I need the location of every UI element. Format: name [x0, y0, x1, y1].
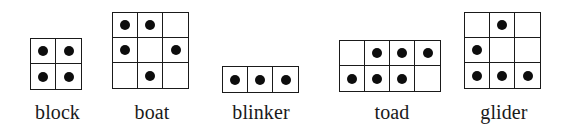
dead-cell[interactable] [415, 66, 440, 91]
live-cell[interactable] [273, 67, 298, 92]
grid-toad [339, 40, 441, 92]
dead-cell[interactable] [163, 63, 188, 88]
grid-row [340, 41, 440, 66]
live-cell[interactable] [465, 38, 490, 63]
live-cell[interactable] [465, 63, 490, 88]
live-cell[interactable] [113, 13, 138, 38]
grid-blinker [222, 66, 299, 93]
dead-cell[interactable] [163, 13, 188, 38]
life-patterns-figure: blockboatblinkertoadglider [0, 0, 573, 135]
grid-row [113, 38, 188, 63]
dead-cell[interactable] [113, 63, 138, 88]
dead-cell[interactable] [465, 13, 490, 38]
live-cell[interactable] [163, 38, 188, 63]
live-cell[interactable] [515, 63, 540, 88]
dead-cell[interactable] [138, 38, 163, 63]
grid-row [113, 13, 188, 38]
pattern-label-toad: toad [339, 101, 445, 123]
live-cell[interactable] [138, 63, 163, 88]
pattern-label-blinker: blinker [210, 101, 312, 123]
grid-block [30, 38, 82, 90]
grid-row [31, 64, 81, 89]
live-cell[interactable] [390, 41, 415, 66]
grid-row [113, 63, 188, 88]
live-cell[interactable] [31, 64, 56, 89]
grid-row [465, 38, 540, 63]
dead-cell[interactable] [515, 38, 540, 63]
pattern-label-boat: boat [112, 101, 192, 123]
live-cell[interactable] [248, 67, 273, 92]
grid-row [223, 67, 298, 92]
live-cell[interactable] [390, 66, 415, 91]
grid-row [465, 63, 540, 88]
live-cell[interactable] [56, 64, 81, 89]
dead-cell[interactable] [490, 38, 515, 63]
pattern-label-glider: glider [455, 101, 553, 123]
live-cell[interactable] [365, 66, 390, 91]
grid-glider [464, 12, 541, 89]
grid-row [465, 13, 540, 38]
grid-row [31, 39, 81, 64]
live-cell[interactable] [138, 13, 163, 38]
live-cell[interactable] [490, 13, 515, 38]
pattern-label-block: block [30, 101, 85, 123]
dead-cell[interactable] [340, 41, 365, 66]
live-cell[interactable] [490, 63, 515, 88]
live-cell[interactable] [31, 39, 56, 64]
live-cell[interactable] [415, 41, 440, 66]
live-cell[interactable] [340, 66, 365, 91]
dead-cell[interactable] [515, 13, 540, 38]
live-cell[interactable] [56, 39, 81, 64]
grid-row [340, 66, 440, 91]
live-cell[interactable] [113, 38, 138, 63]
grid-boat [112, 12, 189, 89]
live-cell[interactable] [223, 67, 248, 92]
live-cell[interactable] [365, 41, 390, 66]
